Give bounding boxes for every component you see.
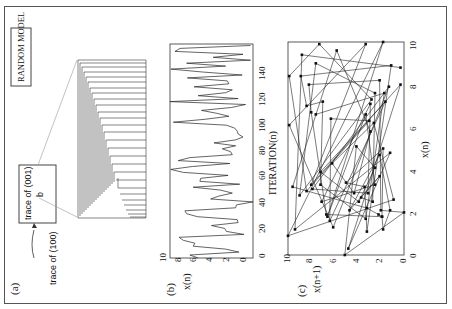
svg-text:20: 20 bbox=[257, 224, 267, 234]
plot-c-series bbox=[288, 42, 404, 255]
svg-text:6: 6 bbox=[408, 126, 418, 131]
arrow-text: trace of (100) bbox=[48, 231, 58, 285]
svg-text:40: 40 bbox=[257, 198, 267, 208]
svg-text:4: 4 bbox=[204, 257, 214, 262]
svg-text:0: 0 bbox=[238, 257, 248, 262]
plot-b-series bbox=[170, 46, 253, 259]
inset-point: b bbox=[35, 192, 45, 197]
panel-a-label: (a) bbox=[8, 282, 21, 295]
panel-c: (c) 10 8 6 4 2 0 x(n+1) 0 2 4 6 8 10 x(n… bbox=[282, 41, 431, 298]
svg-text:10: 10 bbox=[408, 41, 418, 51]
svg-text:4: 4 bbox=[351, 258, 361, 263]
svg-text:100: 100 bbox=[257, 118, 267, 132]
svg-text:0: 0 bbox=[257, 253, 267, 258]
figure-canvas: (a) RANDOM MODEL trace of (001) b trace … bbox=[0, 0, 452, 309]
panel-c-label: (c) bbox=[295, 284, 308, 297]
svg-text:0: 0 bbox=[408, 253, 418, 258]
svg-text:2: 2 bbox=[374, 259, 384, 264]
arrow-icon bbox=[32, 230, 34, 258]
svg-text:8: 8 bbox=[304, 258, 314, 263]
svg-text:140: 140 bbox=[257, 66, 267, 80]
svg-text:2: 2 bbox=[408, 212, 418, 217]
plot-b-xticks: 0 20 40 60 80 100 120 140 bbox=[257, 66, 267, 258]
arrow-head-icon bbox=[32, 223, 37, 228]
plot-b-ylabel: x(n) bbox=[181, 273, 193, 290]
nested-traces bbox=[78, 60, 146, 218]
panel-a: (a) RANDOM MODEL trace of (001) b trace … bbox=[8, 12, 146, 295]
plot-b-axes bbox=[170, 44, 253, 258]
svg-text:6: 6 bbox=[328, 258, 338, 263]
svg-text:0: 0 bbox=[398, 258, 408, 263]
plot-c-xticks: 0 2 4 6 8 10 bbox=[408, 41, 418, 259]
svg-text:60: 60 bbox=[257, 171, 267, 181]
svg-text:10: 10 bbox=[282, 254, 292, 264]
plot-c-xlabel: x(n) bbox=[419, 141, 431, 158]
svg-text:8: 8 bbox=[173, 257, 183, 262]
panel-b: (b) 10 8 6 4 2 0 x(n) 0 20 40 60 80 100 … bbox=[158, 44, 279, 296]
svg-text:4: 4 bbox=[408, 169, 418, 174]
inset-text: trace of (001) bbox=[23, 166, 33, 220]
svg-text:2: 2 bbox=[221, 258, 231, 263]
svg-text:10: 10 bbox=[158, 253, 168, 263]
title-box-text: RANDOM MODEL bbox=[16, 12, 26, 82]
svg-text:80: 80 bbox=[257, 146, 267, 156]
svg-text:8: 8 bbox=[408, 84, 418, 89]
svg-text:120: 120 bbox=[257, 92, 267, 106]
panel-b-label: (b) bbox=[164, 283, 177, 296]
plot-b-xlabel: ITERATION(n) bbox=[267, 131, 279, 195]
plot-c-ylabel: x(n+1) bbox=[311, 266, 323, 293]
